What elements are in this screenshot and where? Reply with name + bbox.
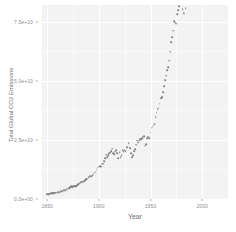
data-point bbox=[179, 6, 181, 8]
gridline-major-y bbox=[42, 22, 228, 23]
data-point bbox=[120, 157, 122, 159]
gridline-minor-y bbox=[42, 169, 228, 170]
y-tick-mark bbox=[36, 80, 38, 81]
data-point bbox=[171, 36, 173, 38]
data-point bbox=[178, 9, 180, 11]
data-point bbox=[125, 151, 127, 153]
data-point bbox=[141, 137, 143, 139]
data-point bbox=[184, 13, 186, 15]
data-point bbox=[95, 171, 97, 173]
data-point bbox=[100, 166, 102, 168]
y-tick-label: 7.5e+10 bbox=[14, 19, 33, 25]
x-axis: 1850190019502000 bbox=[42, 199, 228, 213]
data-point bbox=[121, 154, 123, 156]
data-point bbox=[102, 163, 104, 165]
data-point bbox=[103, 161, 105, 163]
data-point bbox=[111, 148, 113, 150]
data-point bbox=[168, 60, 170, 62]
y-tick-label: 0.0e+00 bbox=[14, 196, 33, 202]
gridline-minor-y bbox=[42, 110, 228, 111]
data-point bbox=[169, 51, 171, 53]
y-axis: 0.0e+002.5e+105.0e+107.5e+10 bbox=[0, 5, 38, 199]
data-point bbox=[132, 154, 134, 156]
data-point bbox=[128, 143, 130, 145]
data-point bbox=[131, 156, 133, 158]
x-tick-label: 2000 bbox=[196, 203, 208, 209]
data-point bbox=[109, 152, 111, 154]
y-tick-mark bbox=[36, 139, 38, 140]
data-point bbox=[87, 178, 89, 180]
data-point bbox=[96, 169, 98, 171]
data-point bbox=[162, 91, 164, 93]
data-point bbox=[113, 153, 115, 155]
data-point bbox=[175, 23, 177, 25]
data-point bbox=[143, 135, 145, 137]
data-point bbox=[134, 148, 136, 150]
data-point bbox=[172, 30, 174, 32]
data-point bbox=[155, 116, 157, 118]
data-point bbox=[156, 112, 158, 114]
x-tick-label: 1900 bbox=[93, 203, 105, 209]
data-point bbox=[149, 137, 151, 139]
gridline-major-x bbox=[47, 5, 48, 199]
data-point bbox=[164, 79, 166, 81]
data-point bbox=[116, 149, 118, 151]
data-point bbox=[107, 155, 109, 157]
data-point bbox=[133, 150, 135, 152]
data-point bbox=[182, 8, 184, 10]
x-axis-title: Year bbox=[42, 213, 228, 220]
gridline-major-x bbox=[151, 5, 152, 199]
data-point bbox=[137, 142, 139, 144]
x-tick-mark bbox=[202, 199, 203, 201]
data-point bbox=[166, 69, 168, 71]
data-point bbox=[161, 96, 163, 98]
data-point bbox=[177, 13, 179, 15]
y-tick-label: 5.0e+10 bbox=[14, 78, 33, 84]
x-tick-mark bbox=[47, 199, 48, 201]
data-point bbox=[150, 132, 152, 134]
y-tick-mark bbox=[36, 21, 38, 22]
data-point bbox=[119, 152, 121, 154]
x-tick-mark bbox=[98, 199, 99, 201]
gridline-minor-y bbox=[42, 51, 228, 52]
data-point bbox=[185, 7, 187, 9]
x-tick-mark bbox=[150, 199, 151, 201]
data-point bbox=[167, 66, 169, 68]
gridline-major-x bbox=[202, 5, 203, 199]
data-point bbox=[129, 147, 131, 149]
data-point bbox=[154, 123, 156, 125]
data-point bbox=[158, 107, 160, 109]
data-point bbox=[159, 103, 161, 105]
data-point bbox=[165, 75, 167, 77]
y-tick-mark bbox=[36, 199, 38, 200]
data-point bbox=[135, 144, 137, 146]
gridline-major-y bbox=[42, 140, 228, 141]
gridline-major-y bbox=[42, 81, 228, 82]
x-tick-label: 1850 bbox=[41, 203, 53, 209]
y-tick-label: 2.5e+10 bbox=[14, 137, 33, 143]
x-tick-label: 1950 bbox=[145, 203, 157, 209]
data-point bbox=[152, 126, 154, 128]
data-point bbox=[163, 85, 165, 87]
co2-emissions-chart: 0.0e+002.5e+105.0e+107.5e+10 18501900195… bbox=[0, 0, 236, 232]
data-point bbox=[170, 42, 172, 44]
gridline-major-x bbox=[99, 5, 100, 199]
plot-panel bbox=[42, 5, 228, 199]
data-point bbox=[146, 144, 148, 146]
y-axis-title: Total Global CO2 Emissions bbox=[8, 8, 14, 202]
